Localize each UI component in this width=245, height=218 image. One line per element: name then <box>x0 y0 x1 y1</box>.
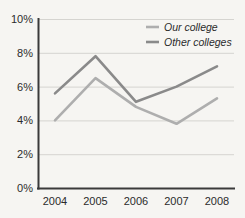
line-chart: 0%2%4%6%8%10% 20042005200620072008 Our c… <box>0 0 245 218</box>
y-axis-tick-label: 10% <box>11 13 33 25</box>
y-axis-tick-label: 0% <box>17 182 33 194</box>
x-axis-tick-label: 2008 <box>205 195 229 207</box>
y-axis-tick-label: 8% <box>17 47 33 59</box>
x-axis-tick-label: 2007 <box>164 195 188 207</box>
x-axis-tick-label: 2004 <box>43 195 67 207</box>
legend-label-other-colleges: Other colleges <box>164 36 232 48</box>
x-axis-tick-label: 2005 <box>83 195 107 207</box>
legend-label-our-college: Our college <box>164 21 218 33</box>
y-axis-tick-label: 6% <box>17 81 33 93</box>
y-axis-tick-label: 4% <box>17 114 33 126</box>
chart-canvas: 0%2%4%6%8%10% 20042005200620072008 Our c… <box>0 0 245 218</box>
x-axis-tick-label: 2006 <box>124 195 148 207</box>
y-axis-tick-label: 2% <box>17 148 33 160</box>
